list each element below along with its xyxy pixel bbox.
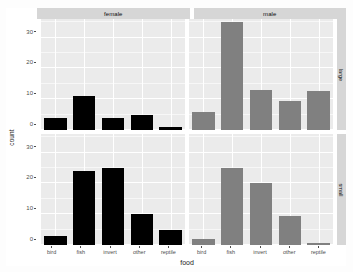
x-axis-ticks: birdfishinvertotherreptile birdfishinver… (37, 245, 346, 259)
bar-large-female-invert (102, 118, 124, 130)
facet-strip-small-label: small (339, 183, 345, 196)
y-tick-small-20: 20 (26, 174, 36, 180)
x-tick-label: fish (77, 249, 86, 255)
y-tick-label: 10 (26, 90, 33, 96)
bar-small-female-reptile (159, 230, 181, 245)
bar-slot-reptile (156, 134, 185, 245)
x-tick-mark (51, 246, 52, 248)
y-tick-small-30: 30 (26, 144, 36, 150)
x-tick-male-bird: bird (187, 245, 216, 259)
bar-slot-fish (218, 19, 247, 130)
x-tick-male-invert: invert (245, 245, 274, 259)
bars-small-male (189, 134, 333, 245)
bar-small-male-bird (192, 239, 214, 245)
x-tick-male-fish: fish (216, 245, 245, 259)
y-axis-ticks-small: 0102030 (17, 134, 37, 245)
y-tick-label: 20 (26, 59, 33, 65)
y-axis-ticks-large: 0102030 (17, 19, 37, 130)
x-tick-label: other (283, 249, 296, 255)
panel-large-female (41, 19, 185, 130)
y-tick-large-30: 30 (26, 29, 36, 35)
x-tick-label: reptile (311, 249, 326, 255)
panel-small-male (189, 134, 333, 245)
x-tick-mark (230, 246, 231, 248)
bar-small-male-invert (250, 183, 272, 245)
facet-strip-male: male (194, 8, 347, 19)
facet-strip-male-label: male (263, 11, 276, 17)
bars-small-female (41, 134, 185, 245)
bar-slot-other (127, 19, 156, 130)
bar-small-male-fish (221, 168, 243, 245)
plot-main-column: female male 0102030 (17, 8, 346, 266)
bar-small-male-other (279, 216, 301, 245)
facet-strip-large: large (337, 19, 346, 130)
bar-slot-invert (247, 134, 276, 245)
x-tick-mark (110, 246, 111, 248)
bar-large-female-bird (44, 118, 66, 130)
bar-small-male-reptile (307, 243, 329, 245)
x-tick-label: invert (253, 249, 266, 255)
x-tick-female-invert: invert (95, 245, 124, 259)
y-tick-mark (34, 93, 36, 94)
bar-large-male-other (279, 101, 301, 130)
x-axis-spacer (337, 245, 346, 259)
facet-strip-female-label: female (104, 11, 123, 17)
x-tick-female-reptile: reptile (154, 245, 183, 259)
y-tick-label: 30 (26, 144, 33, 150)
x-tick-mark (318, 246, 319, 248)
bar-slot-other (275, 134, 304, 245)
bar-small-female-fish (73, 171, 95, 245)
panel-large-male (189, 19, 333, 130)
x-axis-ticks-female: birdfishinvertotherreptile (37, 245, 183, 259)
bar-large-male-invert (250, 90, 272, 130)
y-tick-small-0: 0 (30, 236, 36, 242)
y-tick-large-10: 10 (26, 90, 36, 96)
facet-strip-small: small (337, 134, 346, 245)
x-axis-ticks-male: birdfishinvertotherreptile (187, 245, 333, 259)
bar-slot-reptile (304, 19, 333, 130)
y-tick-small-10: 10 (26, 205, 36, 211)
x-tick-mark (139, 246, 140, 248)
bar-slot-reptile (304, 134, 333, 245)
bar-small-female-invert (102, 168, 124, 245)
y-tick-large-0: 0 (30, 121, 36, 127)
bar-slot-invert (247, 19, 276, 130)
bar-slot-fish (70, 19, 99, 130)
x-tick-label: bird (197, 249, 206, 255)
y-tick-mark (34, 208, 36, 209)
y-tick-label: 30 (26, 29, 33, 35)
y-tick-label: 0 (30, 121, 33, 127)
x-tick-label: bird (47, 249, 56, 255)
x-tick-mark (80, 246, 81, 248)
x-tick-female-fish: fish (66, 245, 95, 259)
bar-slot-fish (70, 134, 99, 245)
panel-small-female (41, 134, 185, 245)
x-tick-label: fish (227, 249, 236, 255)
y-axis-title: count (6, 8, 17, 266)
bar-large-male-bird (192, 112, 214, 130)
bar-large-male-reptile (307, 91, 329, 130)
y-tick-mark (34, 239, 36, 240)
x-tick-mark (168, 246, 169, 248)
y-tick-mark (34, 62, 36, 63)
y-tick-mark (34, 124, 36, 125)
x-axis-title: food (37, 259, 337, 266)
bars-large-female (41, 19, 185, 130)
facet-row-large: 0102030 large (17, 19, 346, 130)
bar-slot-other (275, 19, 304, 130)
x-tick-label: reptile (161, 249, 176, 255)
facet-strip-col-small: small (337, 134, 346, 245)
bar-slot-other (127, 134, 156, 245)
bar-slot-bird (41, 19, 70, 130)
y-tick-mark (34, 31, 36, 32)
bar-slot-bird (189, 19, 218, 130)
y-tick-label: 10 (26, 205, 33, 211)
x-tick-female-bird: bird (37, 245, 66, 259)
x-tick-label: other (133, 249, 146, 255)
y-tick-mark (34, 146, 36, 147)
bar-large-female-reptile (159, 127, 181, 130)
x-tick-female-other: other (125, 245, 154, 259)
bar-large-female-fish (73, 96, 95, 130)
plot-frame: count female male 0102030 (6, 8, 346, 266)
x-tick-mark (289, 246, 290, 248)
